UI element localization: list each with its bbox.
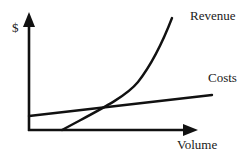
revenue-curve — [62, 18, 172, 130]
x-axis — [28, 124, 198, 136]
y-axis-arrow-icon — [23, 12, 35, 27]
y-axis-label: $ — [12, 21, 19, 34]
revenue-label: Revenue — [190, 9, 235, 22]
x-axis-arrow-icon — [183, 124, 198, 136]
y-axis — [23, 12, 35, 131]
x-axis-label: Volume — [177, 138, 217, 151]
costs-label: Costs — [208, 71, 237, 84]
